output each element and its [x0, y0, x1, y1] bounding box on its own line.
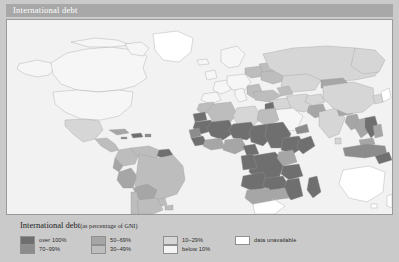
- legend-swatch-stack-3: [163, 236, 178, 254]
- region-korea: [373, 94, 383, 104]
- legend-title-text: International debt: [20, 220, 80, 230]
- legend-label-over-100: over 100%: [39, 235, 91, 245]
- region-iceland: [197, 59, 209, 65]
- page-root: International debt: [0, 0, 399, 262]
- legend-swatch-70-99: [20, 245, 35, 254]
- region-jamaica: [121, 137, 127, 139]
- legend-label-10-29: 10–29%: [182, 235, 234, 245]
- region-western-sahara: [193, 112, 207, 122]
- legend-swatch-over-100: [20, 236, 35, 245]
- world-choropleth-svg: [7, 20, 392, 214]
- region-british-isles: [205, 70, 217, 80]
- map-panel: [6, 19, 393, 215]
- legend-label-data-unavailable: data unavailable: [254, 236, 296, 245]
- region-philippines: [373, 124, 383, 138]
- legend-labels-1: over 100% 70–99%: [39, 235, 91, 254]
- legend-columns: over 100% 70–99% 50–69% 30–49%: [20, 235, 390, 257]
- legend-swatch-30-49: [91, 245, 106, 254]
- region-new-zealand: [387, 194, 392, 208]
- legend-labels-2: 50–69% 30–49%: [110, 235, 162, 254]
- legend-swatch-stack-1: [20, 236, 35, 254]
- legend-swatch-50-69: [91, 236, 106, 245]
- legend-label-30-49: 30–49%: [110, 245, 162, 254]
- legend-label-50-69: 50–69%: [110, 235, 162, 245]
- region-puerto-rico: [145, 134, 151, 137]
- legend-label-below-10: below 10%: [182, 245, 234, 254]
- page-title: International debt: [13, 5, 78, 16]
- title-banner: International debt: [6, 4, 393, 17]
- region-tasmania: [371, 204, 377, 208]
- legend-label-70-99: 70–99%: [39, 245, 91, 254]
- legend-swatch-stack-2: [91, 236, 106, 254]
- world-map: [7, 20, 392, 214]
- region-uruguay: [165, 205, 173, 210]
- legend-swatch-10-29: [163, 236, 178, 245]
- legend-swatch-data-unavailable: [235, 236, 250, 245]
- region-hispaniola: [131, 133, 143, 138]
- legend-swatch-below-10: [163, 245, 178, 254]
- legend-title: International debt(as percentage of GNI): [20, 220, 138, 232]
- region-sri-lanka: [335, 138, 341, 144]
- legend-labels-3: 10–29% below 10%: [182, 235, 234, 254]
- legend-unit-text: (as percentage of GNI): [80, 223, 137, 229]
- map-legend: International debt(as percentage of GNI)…: [6, 220, 393, 258]
